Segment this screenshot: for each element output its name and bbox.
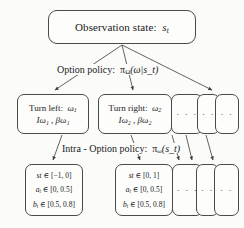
action-row: at ∈ [0, 0.5]: [36, 186, 72, 194]
option-turn-left-title: Turn left: ω1: [29, 103, 77, 113]
ellipsis-dots: · ·: [201, 186, 214, 195]
option-policy-symbol: πΩ(ω|s_t): [118, 64, 159, 75]
action-ellipsis-box-3: · ·: [214, 164, 239, 216]
intra-option-policy-symbol: πω(s_t): [150, 143, 180, 154]
ellipsis-dots: · · ·: [176, 110, 198, 119]
option-turn-left-symbol: ω1: [65, 103, 77, 113]
diagram-canvas: Observation state: st Option policy: πΩ(…: [0, 0, 244, 228]
option-box-turn-right: Turn right: ω2 Iω₂ , βω₂: [98, 94, 172, 134]
ellipsis-dots: · ·: [220, 186, 233, 195]
observation-label-text: Observation state:: [75, 21, 157, 33]
action-row: st ∈ [−1, 0]: [37, 172, 72, 180]
option-turn-right-params: Iω₂ , βω₂: [118, 115, 151, 125]
option-turn-left-text: Turn left:: [29, 103, 63, 113]
option-turn-right-symbol: ω2: [150, 103, 162, 113]
action-row: bt ∈ [0.5, 0.8]: [123, 201, 165, 209]
ellipsis-dots: · ·: [202, 110, 215, 119]
intra-option-policy-prefix: Intra - Option policy:: [62, 143, 147, 154]
action-box-right: st ∈ [0, 1] at ∈ [0, 0.5] bt ∈ [0.5, 0.8…: [115, 164, 173, 216]
option-turn-right-text: Turn right:: [109, 103, 148, 113]
action-box-left: st ∈ [−1, 0] at ∈ [0, 0.5] bt ∈ [0.5, 0.…: [25, 164, 83, 216]
action-row: st ∈ [0, 1]: [129, 172, 160, 180]
option-box-turn-left: Turn left: ω1 Iω₁ , βω₁: [17, 94, 89, 134]
option-policy-prefix: Option policy:: [57, 64, 115, 75]
action-row: bt ∈ [0.5, 0.8]: [33, 201, 75, 209]
option-turn-right-title: Turn right: ω2: [109, 103, 162, 113]
ellipsis-dots: · ·: [220, 110, 233, 119]
observation-state-label: Observation state: st: [75, 21, 169, 33]
intra-option-policy-label: Intra - Option policy: πω(s_t): [61, 143, 181, 154]
observation-state-box: Observation state: st: [48, 10, 196, 44]
observation-symbol: st: [159, 21, 168, 33]
option-turn-left-params: Iω₁ , βω₁: [36, 115, 69, 125]
option-ellipsis-box-3: · ·: [215, 94, 239, 134]
option-policy-label: Option policy: πΩ(ω|s_t): [56, 64, 159, 75]
action-row: at ∈ [0, 0.5]: [126, 186, 162, 194]
